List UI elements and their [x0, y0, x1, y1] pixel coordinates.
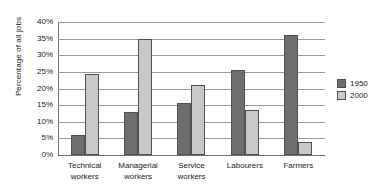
- bars-layer: [58, 22, 325, 155]
- y-axis-tick-label: 40%: [13, 18, 53, 26]
- y-axis-tick-label: 5%: [13, 134, 53, 142]
- bar: [71, 135, 85, 155]
- x-axis-category-label: Serviceworkers: [165, 160, 218, 182]
- y-axis-tick-label: 20%: [13, 85, 53, 93]
- legend-label: 2000: [350, 92, 368, 100]
- category-label-line: Farmers: [272, 160, 325, 171]
- chart-legend: 19502000: [337, 79, 368, 100]
- bar-group: [58, 22, 111, 155]
- bar: [191, 85, 205, 155]
- legend-item[interactable]: 2000: [337, 91, 368, 100]
- legend-label: 1950: [350, 80, 368, 88]
- category-label-line: workers: [58, 171, 111, 182]
- x-axis-category-label: Technicalworkers: [58, 160, 111, 182]
- x-axis-category-label: Farmers: [272, 160, 325, 171]
- plot-area: [58, 22, 325, 155]
- y-axis-tick-label: 30%: [13, 51, 53, 59]
- bar: [124, 112, 138, 155]
- bar: [284, 35, 298, 155]
- bar: [231, 70, 245, 155]
- bar-group: [111, 22, 164, 155]
- bar: [85, 74, 99, 155]
- y-axis-tick-label: 15%: [13, 101, 53, 109]
- x-axis-category-label: Labourers: [218, 160, 271, 171]
- x-axis-category-label: Managerialworkers: [111, 160, 164, 182]
- bar-group: [272, 22, 325, 155]
- bar-chart: Percentage of all jobs 40%35%30%25%20%15…: [0, 0, 384, 195]
- y-axis-tick-label: 0%: [13, 151, 53, 159]
- bar-group: [218, 22, 271, 155]
- category-label-line: workers: [111, 171, 164, 182]
- category-label-line: Managerial: [111, 160, 164, 171]
- y-axis-tick-label: 35%: [13, 35, 53, 43]
- category-label-line: Labourers: [218, 160, 271, 171]
- bar: [138, 39, 152, 155]
- category-label-line: Service: [165, 160, 218, 171]
- legend-swatch-icon: [337, 91, 346, 100]
- bar-group: [165, 22, 218, 155]
- category-label-line: Technical: [58, 160, 111, 171]
- category-label-line: workers: [165, 171, 218, 182]
- legend-swatch-icon: [337, 79, 346, 88]
- y-axis-tick-label: 25%: [13, 68, 53, 76]
- y-axis-tick-label: 10%: [13, 118, 53, 126]
- bar: [245, 110, 259, 155]
- bar: [298, 142, 312, 155]
- gridline: [58, 155, 325, 156]
- bar: [177, 103, 191, 155]
- legend-item[interactable]: 1950: [337, 79, 368, 88]
